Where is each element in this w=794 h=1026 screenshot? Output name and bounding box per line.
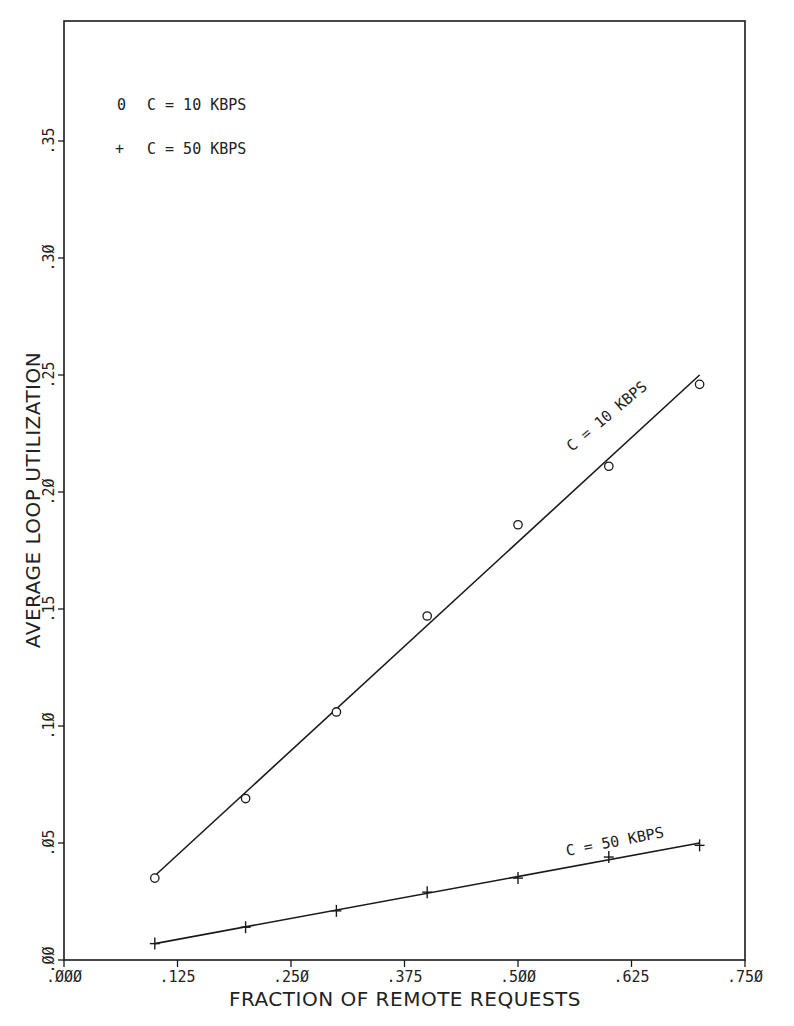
marker-plus xyxy=(695,839,705,851)
y-tick-label: .ØØ xyxy=(40,946,58,973)
x-tick-label: .5ØØ xyxy=(500,968,536,986)
marker-circle xyxy=(514,521,522,529)
marker-circle xyxy=(241,794,249,802)
marker-circle xyxy=(332,708,340,716)
fit-line-10kbps xyxy=(155,375,700,876)
y-axis-title: AVERAGE LOOP UTILIZATION xyxy=(21,352,45,648)
x-tick-label: .625 xyxy=(613,968,649,986)
y-tick-label: .35 xyxy=(40,127,58,154)
marker-plus xyxy=(331,905,341,917)
x-axis-ticks: .ØØØ.125.25Ø.375.5ØØ.625.75Ø xyxy=(46,960,763,986)
marker-plus xyxy=(604,851,614,863)
curve-label-10kbps: C = 10 KBPS xyxy=(563,377,651,455)
marker-plus xyxy=(241,921,251,933)
legend-symbol-circle: 0 xyxy=(117,96,126,114)
marker-plus xyxy=(513,872,523,884)
x-tick-label: .25Ø xyxy=(273,968,309,986)
data-markers xyxy=(150,380,705,949)
legend: 0 C = 10 KBPS + C = 50 KBPS xyxy=(115,96,246,158)
marker-plus xyxy=(150,938,160,950)
line-chart: .ØØØ.125.25Ø.375.5ØØ.625.75Ø .ØØ.Ø5.1Ø.1… xyxy=(0,0,794,1026)
marker-circle xyxy=(605,462,613,470)
plot-border xyxy=(64,21,745,960)
y-tick-label: .1Ø xyxy=(40,712,58,739)
y-tick-label: .Ø5 xyxy=(40,829,58,856)
x-tick-label: .75Ø xyxy=(727,968,763,986)
marker-plus xyxy=(422,886,432,898)
y-tick-label: .3Ø xyxy=(40,244,58,271)
legend-symbol-plus: + xyxy=(115,140,124,158)
marker-circle xyxy=(423,612,431,620)
fit-lines xyxy=(155,375,700,944)
plot-frame xyxy=(64,21,745,960)
legend-label-50kbps: C = 50 KBPS xyxy=(147,140,246,158)
marker-circle xyxy=(695,380,703,388)
x-tick-label: .125 xyxy=(159,968,195,986)
x-tick-label: .375 xyxy=(386,968,422,986)
legend-label-10kbps: C = 10 KBPS xyxy=(147,96,246,114)
x-axis-title: FRACTION OF REMOTE REQUESTS xyxy=(229,987,581,1011)
marker-circle xyxy=(151,874,159,882)
curve-label-50kbps: C = 50 KBPS xyxy=(564,823,665,860)
